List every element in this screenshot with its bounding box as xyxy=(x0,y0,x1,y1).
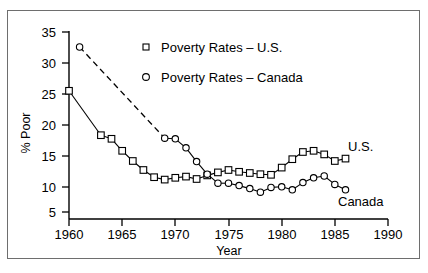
data-point xyxy=(247,170,254,177)
x-tick-label-1970: 1970 xyxy=(161,227,190,242)
data-point xyxy=(289,156,296,163)
data-point xyxy=(130,158,137,165)
data-point xyxy=(98,132,105,139)
data-point xyxy=(215,180,221,186)
y-tick-label-25: 25 xyxy=(42,87,56,102)
data-point xyxy=(342,187,348,193)
x-tick-label-1960: 1960 xyxy=(55,227,84,242)
data-point xyxy=(332,158,339,165)
x-axis-title: Year xyxy=(216,244,241,258)
data-point xyxy=(257,171,264,178)
data-point xyxy=(278,164,285,171)
series-0-segment xyxy=(69,91,101,135)
data-point xyxy=(215,169,222,176)
data-point xyxy=(268,172,275,179)
data-point xyxy=(321,173,327,179)
data-point xyxy=(66,88,73,95)
x-tick-label-1985: 1985 xyxy=(321,227,350,242)
data-point xyxy=(310,175,316,181)
x-tick-label-1965: 1965 xyxy=(108,227,137,242)
y-axis-title: % Poor xyxy=(19,113,33,154)
circle-marker-icon xyxy=(143,74,150,81)
data-point xyxy=(172,136,178,142)
data-point xyxy=(76,44,82,50)
x-tick-label-1975: 1975 xyxy=(215,227,244,242)
data-point xyxy=(183,145,189,151)
data-point xyxy=(161,176,168,183)
data-point xyxy=(193,176,200,183)
series-1-segment xyxy=(80,47,165,138)
x-tick-label-1990: 1990 xyxy=(374,227,403,242)
y-tick-label-35: 35 xyxy=(42,25,56,40)
y-tick-label-20: 20 xyxy=(42,118,56,133)
poverty-rates-line-chart: 35 30 25 20 15 10 5 % Poor 1960 1965 197… xyxy=(8,11,419,258)
data-point xyxy=(289,187,295,193)
data-point xyxy=(300,179,306,185)
square-marker-icon xyxy=(143,44,149,50)
data-point xyxy=(300,149,307,156)
data-point xyxy=(204,171,210,177)
data-point xyxy=(310,148,317,155)
data-point xyxy=(247,185,253,191)
y-tick-label-15: 15 xyxy=(42,149,56,164)
data-point xyxy=(225,167,232,174)
data-point xyxy=(108,136,115,143)
series-layer xyxy=(66,44,349,196)
data-point xyxy=(236,169,243,176)
legend-label-us: Poverty Rates – U.S. xyxy=(161,40,282,55)
inline-label-canada: Canada xyxy=(338,194,384,209)
data-point xyxy=(140,167,147,174)
data-point xyxy=(172,175,179,182)
inline-label-us: U.S. xyxy=(348,139,373,154)
x-tick-label-1980: 1980 xyxy=(268,227,297,242)
data-point xyxy=(321,151,328,158)
data-point xyxy=(332,181,338,187)
y-tick-label-5: 5 xyxy=(49,205,56,220)
data-point xyxy=(193,158,199,164)
data-point xyxy=(119,148,126,155)
data-point xyxy=(183,173,190,180)
x-axis-ticks xyxy=(69,219,388,226)
legend-label-canada: Poverty Rates – Canada xyxy=(161,70,303,85)
data-point xyxy=(236,182,242,188)
data-point xyxy=(268,184,274,190)
y-axis-ticks xyxy=(62,32,69,212)
data-point xyxy=(279,184,285,190)
data-point xyxy=(162,135,168,141)
chart-legend: Poverty Rates – U.S. Poverty Rates – Can… xyxy=(143,40,304,85)
chart-frame: 35 30 25 20 15 10 5 % Poor 1960 1965 197… xyxy=(7,10,420,259)
data-point xyxy=(342,155,349,162)
data-point xyxy=(257,189,263,195)
y-tick-label-30: 30 xyxy=(42,56,56,71)
data-point xyxy=(151,174,158,181)
data-point xyxy=(225,180,231,186)
y-tick-label-10: 10 xyxy=(42,180,56,195)
